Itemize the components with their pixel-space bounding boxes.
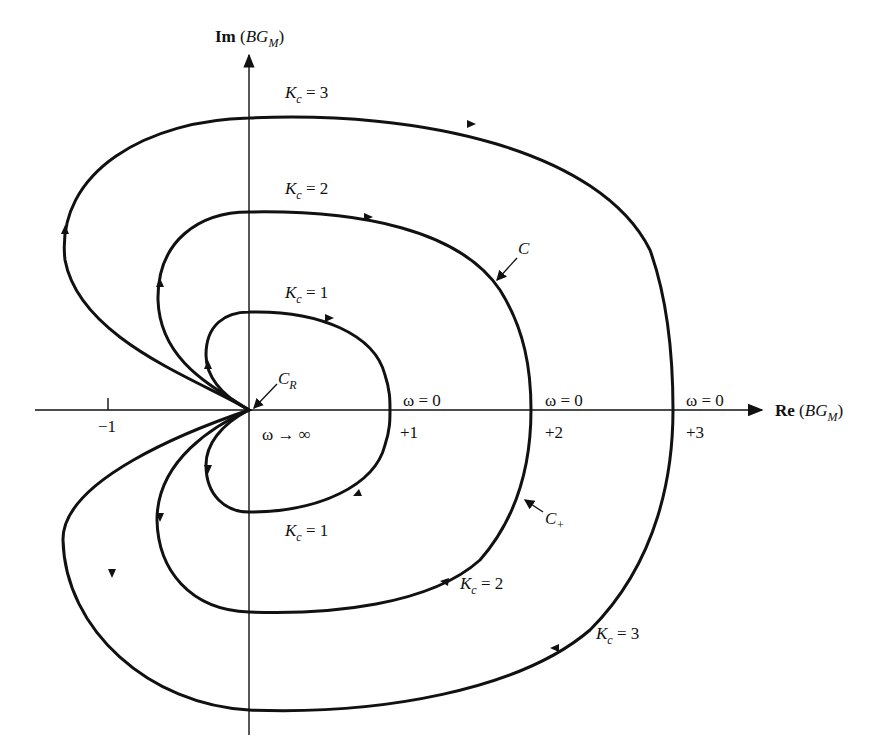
tick-label-plus-3: +3: [686, 424, 704, 441]
tick-label-minus-1: −1: [98, 418, 116, 435]
omega-zero-label-1: ω = 0: [403, 392, 441, 409]
direction-arrows: [61, 120, 559, 652]
label-kc-1-lower: Kc = 1: [285, 522, 328, 539]
label-kc-2-upper: Kc = 2: [285, 180, 328, 197]
pointer-c-r: [254, 384, 277, 408]
curve-kc-1: [206, 312, 390, 512]
curve-kc-2: [157, 212, 531, 613]
omega-infinity-label: ω → ∞: [262, 426, 311, 443]
label-kc-1-upper: Kc = 1: [285, 284, 328, 301]
contour-label-c-r: CR: [278, 370, 297, 387]
curve-kc-3: [63, 117, 673, 711]
pointer-c: [497, 258, 517, 280]
contour-label-c-plus: C+: [545, 510, 564, 527]
label-kc-3-lower: Kc = 3: [596, 625, 639, 642]
real-axis-label: Re (BGM): [775, 402, 843, 419]
tick-label-plus-1: +1: [400, 424, 418, 441]
label-kc-3-upper: Kc = 3: [285, 84, 328, 101]
tick-label-plus-2: +2: [545, 424, 563, 441]
label-kc-2-lower: Kc = 2: [460, 575, 503, 592]
pointer-c-plus: [525, 500, 543, 512]
nyquist-plot: [0, 0, 885, 752]
contour-label-c: C: [518, 240, 529, 257]
imag-axis-label: Im (BGM): [215, 28, 284, 45]
omega-zero-label-3: ω = 0: [686, 392, 724, 409]
omega-zero-label-2: ω = 0: [545, 392, 583, 409]
